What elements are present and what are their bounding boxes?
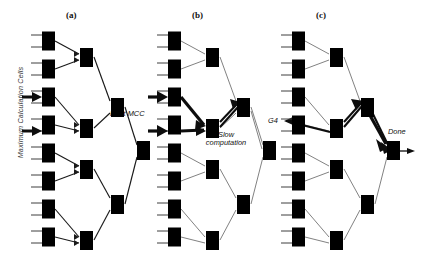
mcc-leaf-b2	[157, 60, 181, 79]
mcc-leaf-7	[31, 200, 55, 219]
panel-c-root-node	[387, 141, 400, 160]
panel-a-input-arrows	[22, 92, 42, 136]
panel-b-input-arrows	[148, 91, 168, 137]
mcc-leaf-1	[31, 32, 55, 51]
panel-a-level3-nodes	[111, 98, 124, 214]
panel-b-level3-nodes	[237, 98, 250, 214]
panel-c-leaves	[281, 32, 305, 247]
mcc-leaf-c6	[281, 172, 305, 191]
mcc-leaf-c5	[281, 144, 305, 163]
panel-c-level3-nodes	[361, 98, 374, 214]
panel-c-level2-nodes	[330, 48, 343, 250]
panel-c-edges	[305, 41, 387, 243]
panel-a-leaves	[31, 32, 55, 247]
panel-a-group	[22, 32, 150, 251]
mcc-leaf-2	[31, 60, 55, 79]
mcc-leaf-c4	[281, 116, 305, 135]
panel-b-leaves	[157, 32, 181, 247]
mcc-leaf-b7	[157, 200, 181, 219]
mcc-leaf-c8	[281, 228, 305, 247]
mcc-leaf-c7	[281, 200, 305, 219]
panel-b-edges	[181, 41, 263, 243]
panel-a-edges	[55, 41, 137, 246]
mcc-leaf-6	[31, 172, 55, 191]
mcc-leaf-b1	[157, 32, 181, 51]
mcc-leaf-5	[31, 144, 55, 163]
panel-a-root-node	[137, 141, 150, 160]
mcc-leaf-c3	[281, 88, 305, 107]
mcc-leaf-b8	[157, 228, 181, 247]
mcc-leaf-b5	[157, 144, 181, 163]
mcc-leaf-c2	[281, 60, 305, 79]
mcc-leaf-b6	[157, 172, 181, 191]
panel-b-root-node	[263, 141, 276, 160]
mcc-leaf-c1	[281, 32, 305, 51]
tree-diagram-canvas	[0, 0, 433, 274]
panel-b-level2-nodes	[206, 48, 219, 250]
panel-b-group	[148, 32, 276, 251]
panel-a-level2-nodes	[80, 48, 93, 250]
figure-root: Maximum Calculation Cells (a) (b) (c) Ro…	[0, 0, 433, 274]
mcc-leaf-8	[31, 228, 55, 247]
panel-c-group	[281, 32, 415, 251]
